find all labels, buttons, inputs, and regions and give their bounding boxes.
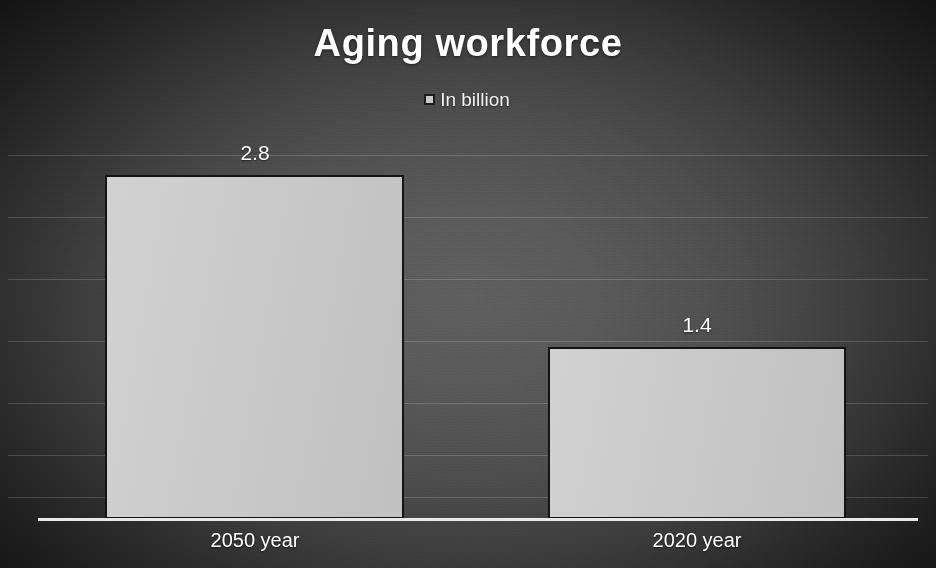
x-axis-line — [38, 518, 918, 521]
bar-sheen — [550, 349, 844, 517]
bar-value-label-2050: 2.8 — [155, 141, 355, 165]
bar-sheen — [107, 177, 402, 517]
gridline — [8, 155, 928, 156]
bar-2020-year[interactable] — [548, 347, 846, 519]
chart-container: Aging workforce In billion 2.8 1.4 2050 … — [0, 0, 936, 568]
category-label-2020: 2020 year — [597, 529, 797, 552]
category-label-2050: 2050 year — [155, 529, 355, 552]
bar-value-label-2020: 1.4 — [597, 313, 797, 337]
plot-area: 2.8 1.4 2050 year 2020 year — [0, 0, 936, 568]
bar-2050-year[interactable] — [105, 175, 404, 519]
